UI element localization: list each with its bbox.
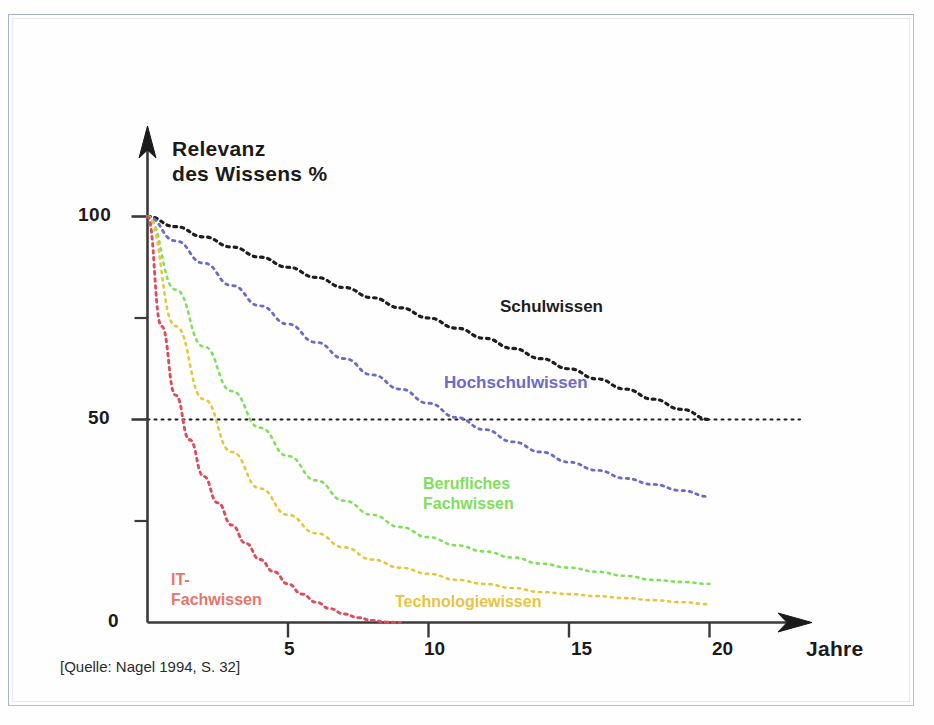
series-curve-hochschulwissen	[148, 217, 710, 497]
y-tick-label-100: 100	[78, 204, 111, 226]
series-label-it-line-1: IT-	[171, 570, 262, 590]
series-label-hochschulwissen: Hochschulwissen	[444, 373, 588, 393]
series-label-it-line-2: Fachwissen	[171, 590, 262, 610]
knowledge-relevance-chart	[0, 0, 934, 725]
series-label-berufliches-line-2: Fachwissen	[423, 494, 514, 514]
x-axis-title: Jahre	[806, 637, 864, 661]
series-curve-technologiewissen	[148, 217, 710, 605]
x-tick-label-5: 5	[284, 638, 295, 660]
series-label-berufliches-fachwissen: Berufliches Fachwissen	[423, 474, 514, 514]
y-axis-title-line-2: des Wissens %	[172, 161, 327, 186]
series-label-schulwissen: Schulwissen	[500, 297, 603, 317]
source-citation: [Quelle: Nagel 1994, S. 32]	[60, 658, 240, 675]
x-tick-label-15: 15	[571, 638, 592, 660]
scanned-page: 100 50 0 5 10 15 20 Relevanz des Wissens…	[0, 0, 934, 725]
series-curve-schulwissen	[148, 217, 710, 420]
chart-figure: 100 50 0 5 10 15 20 Relevanz des Wissens…	[0, 0, 934, 725]
series-label-technologiewissen: Technologiewissen	[395, 592, 541, 612]
y-axis-title-line-1: Relevanz	[172, 136, 327, 161]
series-label-it-fachwissen: IT- Fachwissen	[171, 570, 262, 610]
y-tick-label-50: 50	[88, 407, 110, 429]
x-tick-label-20: 20	[712, 638, 733, 660]
y-tick-label-0: 0	[108, 610, 119, 632]
y-axis-title: Relevanz des Wissens %	[172, 136, 327, 186]
series-label-berufliches-line-1: Berufliches	[423, 474, 514, 494]
series-curve-berufliches-fachwissen	[148, 217, 710, 584]
x-tick-label-10: 10	[424, 638, 445, 660]
